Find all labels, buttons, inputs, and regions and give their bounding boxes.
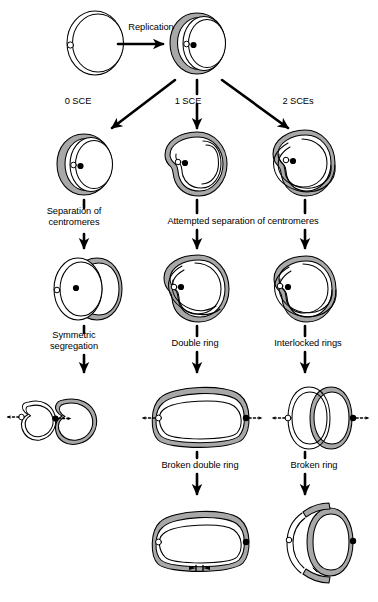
- label-separation-of-centromeres: Separation of centromeres: [24, 206, 124, 227]
- centromere-filled: [178, 284, 184, 290]
- centromere-open: [67, 42, 73, 48]
- centromere-open: [54, 287, 60, 293]
- broken-double-ring-figure: [152, 511, 249, 571]
- centromere-open: [156, 415, 162, 421]
- one-sce-ring-figure: [165, 132, 227, 196]
- label-broken-double-ring: Broken double ring: [138, 460, 262, 471]
- centromere-filled: [290, 158, 296, 164]
- label-0-sce: 0 SCE: [52, 96, 104, 107]
- centromere-filled: [285, 284, 291, 290]
- diagram-canvas: [0, 0, 378, 602]
- no-sce-ring-figure: [57, 134, 113, 195]
- centromere-open: [283, 157, 289, 163]
- centromere-filled: [77, 163, 83, 169]
- double-ring-stage-figure: [164, 255, 229, 322]
- symmetric-result-figure: [7, 399, 97, 444]
- centromere-filled: [73, 285, 79, 291]
- label-symmetric-segregation: Symmetric segregation: [26, 330, 122, 351]
- symmetric-pair-figure: [54, 258, 122, 320]
- parent-ring-figure: [67, 11, 124, 75]
- centromere-filled: [350, 415, 356, 421]
- centromere-filled: [243, 415, 249, 421]
- label-2-sces: 2 SCEs: [270, 96, 326, 107]
- label-replication: Replication: [112, 22, 190, 33]
- centromere-filled: [350, 538, 356, 544]
- centromere-open: [286, 537, 292, 543]
- centromere-open: [175, 159, 181, 165]
- label-double-ring: Double ring: [156, 338, 234, 349]
- centromere-open: [184, 41, 190, 47]
- label-interlocked-rings: Interlocked rings: [258, 338, 358, 349]
- centromere-open: [171, 284, 177, 290]
- centromere-open: [156, 539, 162, 545]
- stretched-double-ring-figure: [142, 387, 262, 447]
- centromere-open: [285, 415, 291, 421]
- centromere-open: [277, 283, 283, 289]
- sce-ring-chromosome-diagram: Replication 0 SCE 1 SCE 2 SCEs Separatio…: [0, 0, 378, 602]
- broken-ring-figure: [286, 503, 356, 583]
- label-1-sce: 1 SCE: [162, 96, 214, 107]
- centromere-filled: [182, 160, 188, 166]
- label-broken-ring: Broken ring: [268, 460, 360, 471]
- stretched-interlocked-figure: [272, 387, 369, 449]
- two-sce-ring-figure: [273, 130, 335, 196]
- centromere-filled: [243, 539, 249, 545]
- centromere-filled: [190, 42, 196, 48]
- centromere-open: [71, 162, 77, 168]
- interlocked-stage-figure: [274, 256, 336, 322]
- label-attempted-separation-of-centromeres: Attempted separation of centromeres: [128, 216, 358, 227]
